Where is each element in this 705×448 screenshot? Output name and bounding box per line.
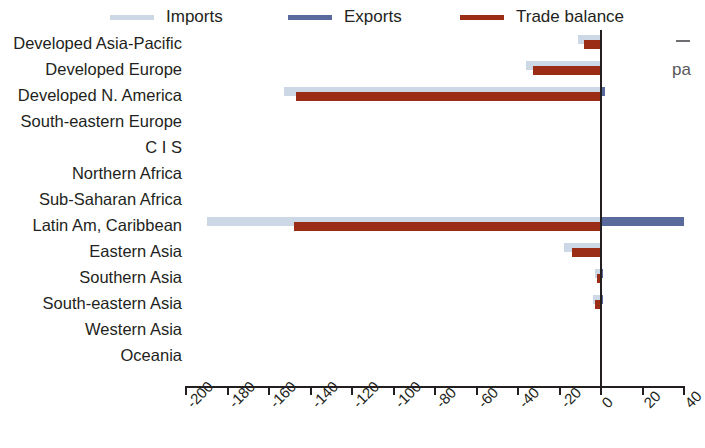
legend-swatch-imports [110, 15, 154, 20]
chart-row: Western Asia [0, 316, 701, 342]
category-label: Northern Africa [72, 160, 182, 186]
chart-row: Northern Africa [0, 160, 701, 186]
plot-area: Developed Asia-PacificDeveloped EuropeDe… [0, 30, 701, 382]
zero-axis-line [600, 30, 602, 386]
legend-item-exports: Exports [288, 4, 402, 30]
x-tick [393, 386, 395, 395]
chart-row: Developed Asia-Pacific [0, 30, 701, 56]
chart-row: Sub-Saharan Africa [0, 186, 701, 212]
category-label: Developed Asia-Pacific [13, 30, 182, 56]
x-tick-label: -100 [391, 378, 424, 411]
legend-item-imports: Imports [110, 4, 223, 30]
chart-row: Developed N. America [0, 82, 701, 108]
edge-annotation-text: pa [672, 60, 691, 80]
bar-exports [601, 217, 684, 226]
category-label: Latin Am, Caribbean [32, 212, 182, 238]
x-tick-label: -200 [183, 378, 216, 411]
category-label: Eastern Asia [89, 238, 182, 264]
x-tick-label: -140 [308, 378, 341, 411]
x-tick [476, 386, 478, 395]
chart-row: Developed Europe [0, 56, 701, 82]
bar-trade-balance [572, 248, 601, 257]
edge-tick-icon [676, 40, 690, 42]
x-tick [227, 386, 229, 395]
chart-legend: Imports Exports Trade balance [0, 4, 701, 32]
chart-row: Eastern Asia [0, 238, 701, 264]
category-label: South-eastern Asia [43, 290, 182, 316]
chart-row: Latin Am, Caribbean [0, 212, 701, 238]
chart-row: Oceania [0, 342, 701, 368]
category-label: Southern Asia [79, 264, 182, 290]
x-tick [559, 386, 561, 395]
category-label: Oceania [121, 342, 182, 368]
legend-label-trade-balance: Trade balance [516, 7, 624, 27]
category-label: Sub-Saharan Africa [39, 186, 182, 212]
x-tick-label: -160 [266, 378, 299, 411]
category-label: Western Asia [85, 316, 182, 342]
category-label: C I S [145, 134, 182, 160]
legend-item-trade-balance: Trade balance [460, 4, 624, 30]
x-tick-label: -120 [349, 378, 382, 411]
legend-label-exports: Exports [344, 7, 402, 27]
x-tick-label: -180 [225, 378, 258, 411]
bar-trade-balance [584, 40, 601, 49]
category-label: Developed N. America [18, 82, 182, 108]
bar-trade-balance [296, 92, 601, 101]
category-label: Developed Europe [45, 56, 182, 82]
category-label: South-eastern Europe [21, 108, 182, 134]
chart-row: Southern Asia [0, 264, 701, 290]
x-tick [310, 386, 312, 395]
chart-row: C I S [0, 134, 701, 160]
bar-trade-balance [294, 222, 601, 231]
bar-trade-balance [533, 66, 601, 75]
legend-label-imports: Imports [166, 7, 223, 27]
legend-swatch-exports [288, 15, 332, 20]
x-tick [642, 386, 644, 395]
chart-row: South-eastern Europe [0, 108, 701, 134]
legend-swatch-trade-balance [460, 15, 504, 20]
x-tick-label: 0 [598, 393, 616, 411]
chart-row: South-eastern Asia [0, 290, 701, 316]
